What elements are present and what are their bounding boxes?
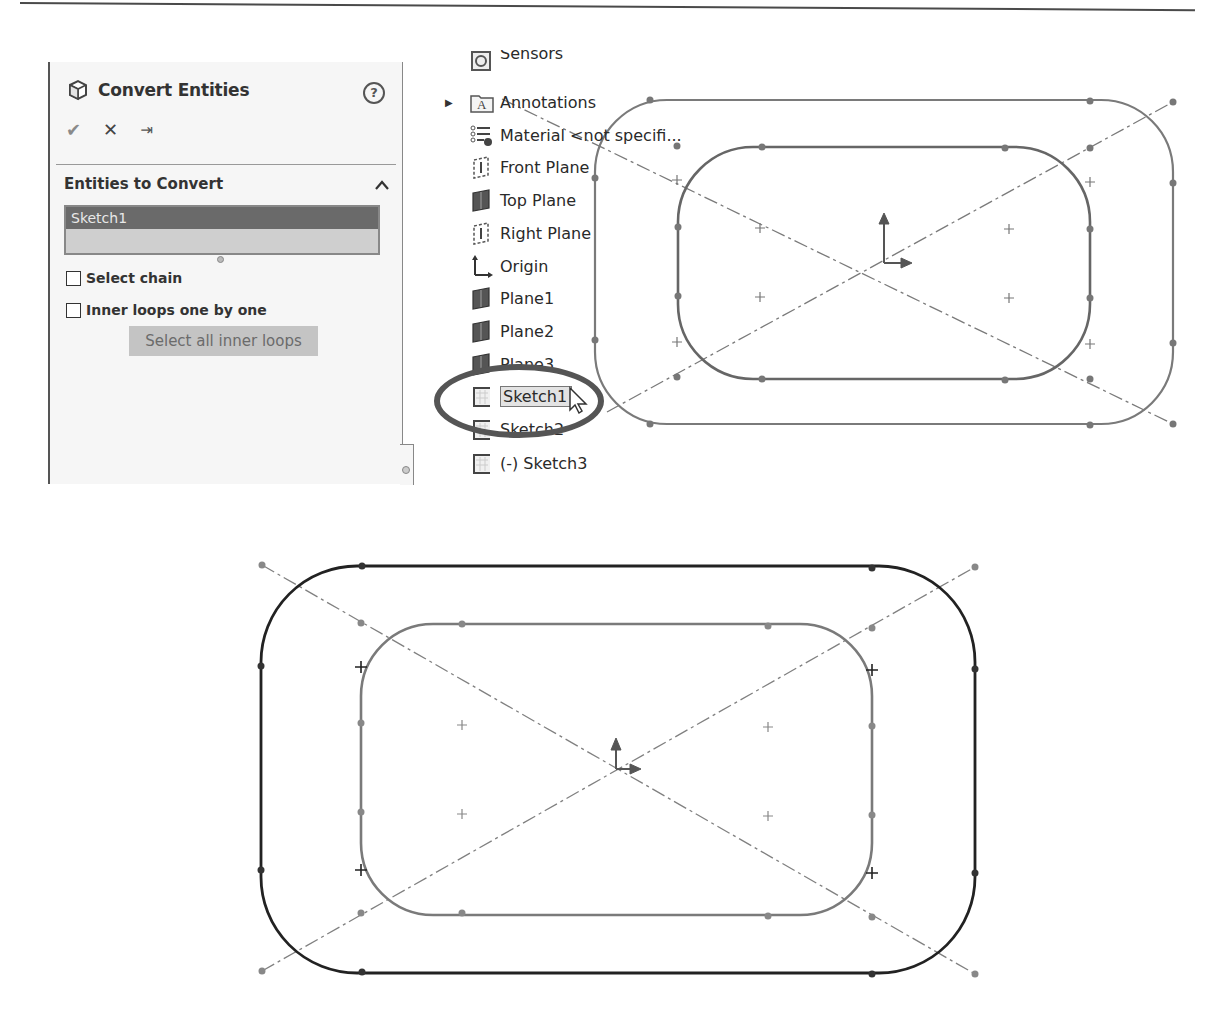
tree-item-plane1[interactable]: Plane1 (470, 287, 554, 309)
tree-item-label: Top Plane (500, 191, 576, 210)
tree-item-annotations[interactable]: A Annotations (470, 91, 596, 113)
tree-item-label: Front Plane (500, 158, 589, 177)
material-icon (470, 124, 492, 146)
tree-item-material[interactable]: Material <not specifi... (470, 124, 682, 146)
tree-item-label: (-) Sketch3 (500, 454, 587, 473)
converted-sketch-view (0, 512, 1225, 1012)
plane-outline-icon (470, 156, 492, 178)
plane-solid-icon (470, 189, 492, 211)
sketch-icon (470, 452, 492, 474)
tree-item-label: Plane1 (500, 289, 554, 308)
plane-outline-icon (470, 222, 492, 244)
tree-item-label: Material <not specifi... (500, 126, 682, 145)
plane-solid-icon (470, 287, 492, 309)
svg-text:A: A (477, 97, 487, 112)
tree-item-sketch3[interactable]: (-) Sketch3 (470, 452, 587, 474)
tree-item-label: Plane2 (500, 322, 554, 341)
tree-item-label: Origin (500, 257, 548, 276)
tree-item-top-plane[interactable]: Top Plane (470, 189, 576, 211)
annotations-folder-icon: A (470, 91, 492, 113)
tree-item-label: Annotations (500, 93, 596, 112)
plane-solid-icon (470, 320, 492, 342)
tree-item-right-plane[interactable]: Right Plane (470, 222, 591, 244)
tree-item-front-plane[interactable]: Front Plane (470, 156, 589, 178)
top-sketch-view (0, 0, 1225, 500)
expand-arrow-icon[interactable]: ▶ (445, 97, 453, 108)
mouse-cursor-icon (568, 386, 598, 416)
tree-item-plane2[interactable]: Plane2 (470, 320, 554, 342)
sensor-icon (470, 50, 492, 72)
tree-item-origin[interactable]: Origin (470, 255, 548, 277)
tree-item-sensors[interactable]: Sensors (470, 50, 563, 72)
origin-icon (470, 255, 492, 277)
tree-item-label: Sensors (500, 50, 563, 63)
tree-item-label: Right Plane (500, 224, 591, 243)
